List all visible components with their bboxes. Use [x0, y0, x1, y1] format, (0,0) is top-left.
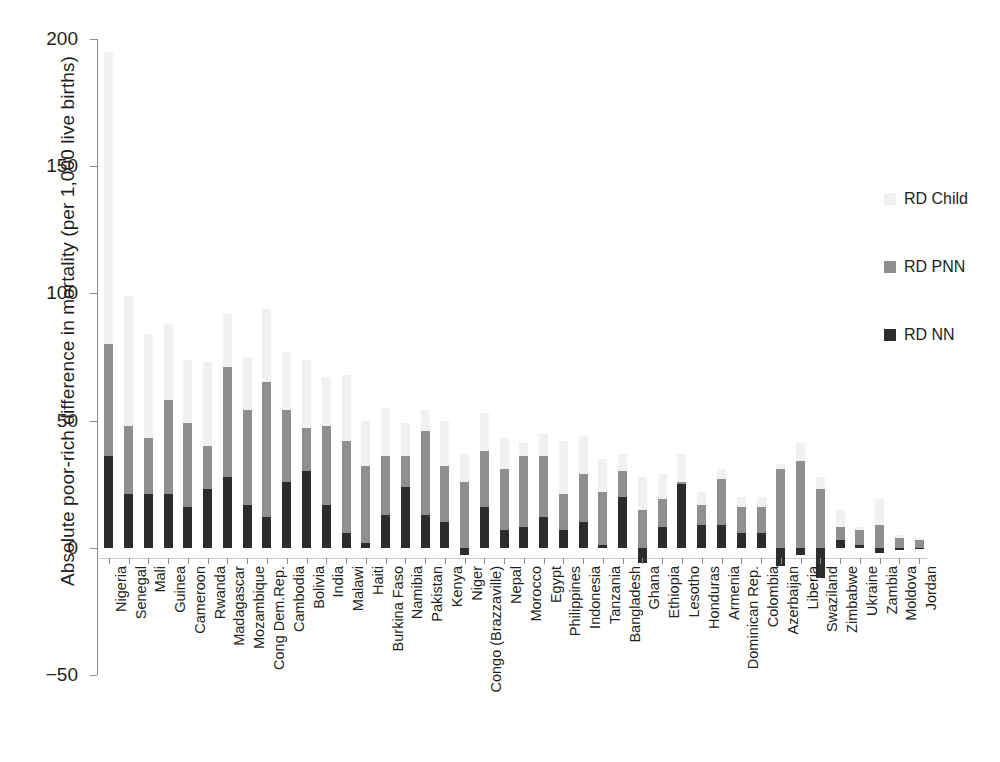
- segment-rd-child: [875, 499, 884, 524]
- x-tick: [287, 558, 288, 564]
- x-axis-label-lesotho: Lesotho: [687, 566, 702, 618]
- legend-swatch-rd-child-icon: [884, 193, 896, 205]
- segment-rd-pnn: [282, 410, 291, 481]
- segment-rd-pnn: [855, 530, 864, 545]
- segment-rd-pnn: [737, 507, 746, 532]
- segment-rd-pnn: [915, 540, 924, 548]
- segment-rd-nn: [757, 533, 766, 548]
- segment-rd-nn: [262, 517, 271, 548]
- segment-rd-child: [717, 469, 726, 479]
- segment-rd-child: [282, 352, 291, 411]
- x-axis-label-haiti: Haiti: [371, 566, 386, 595]
- y-tick-label: 100: [46, 282, 78, 304]
- x-tick: [168, 558, 169, 564]
- x-axis-label-swaziland: Swaziland: [825, 566, 840, 632]
- segment-rd-nn: [203, 489, 212, 548]
- segment-rd-nn: [124, 494, 133, 547]
- segment-rd-nn: [361, 543, 370, 548]
- x-tick: [386, 558, 387, 564]
- x-tick: [227, 558, 228, 564]
- segment-rd-nn: [559, 530, 568, 548]
- x-axis-label-ethiopia: Ethiopia: [667, 566, 682, 618]
- segment-rd-child: [440, 421, 449, 467]
- x-tick: [642, 558, 643, 564]
- x-axis-label-tanzania: Tanzania: [608, 566, 623, 624]
- segment-rd-child: [302, 360, 311, 429]
- x-axis-label-nepal: Nepal: [509, 566, 524, 604]
- figure-container: Absolute poor-rich difference in mortali…: [0, 0, 1000, 762]
- x-tick: [801, 558, 802, 564]
- legend-item-rd-child[interactable]: RD Child: [884, 190, 968, 208]
- x-axis-label-zimbabwe: Zimbabwe: [845, 566, 860, 633]
- segment-rd-nn: [500, 530, 509, 548]
- segment-rd-nn: [243, 505, 252, 548]
- segment-rd-nn: [677, 484, 686, 548]
- page-caption: [0, 742, 1000, 762]
- y-tick-0: 0: [90, 548, 97, 549]
- segment-rd-pnn: [618, 471, 627, 496]
- segment-rd-pnn: [144, 438, 153, 494]
- x-axis-label-armenia: Armenia: [727, 566, 742, 620]
- x-tick: [247, 558, 248, 564]
- segment-rd-nn: [104, 456, 113, 548]
- x-axis-label-zambia: Zambia: [885, 566, 900, 614]
- x-tick: [919, 558, 920, 564]
- y-tick-label: 150: [46, 155, 78, 177]
- segment-rd-pnn: [203, 446, 212, 489]
- x-axis-label-moldova: Moldova: [904, 566, 919, 621]
- segment-rd-nn: [302, 471, 311, 547]
- legend-item-rd-pnn[interactable]: RD PNN: [884, 258, 965, 276]
- x-axis-label-namibia: Namibia: [410, 566, 425, 619]
- segment-rd-pnn: [104, 344, 113, 456]
- x-axis-label-malawi: Malawi: [351, 566, 366, 611]
- x-axis-label-dominican-rep: Dominican Rep.: [746, 566, 761, 669]
- x-axis-label-india: India: [331, 566, 346, 597]
- x-axis-label-cong-dem-rep: Cong Dem.Rep.: [272, 566, 287, 670]
- x-tick: [188, 558, 189, 564]
- x-tick: [623, 558, 624, 564]
- segment-rd-child: [460, 454, 469, 482]
- x-axis-label-philippines: Philippines: [568, 566, 583, 636]
- segment-rd-pnn: [638, 510, 647, 548]
- x-axis-label-azerbaijan: Azerbaijan: [786, 566, 801, 635]
- segment-rd-nn: [796, 548, 805, 556]
- x-tick: [880, 558, 881, 564]
- segment-rd-child: [598, 459, 607, 492]
- segment-rd-child: [816, 477, 825, 490]
- segment-rd-child: [618, 454, 627, 472]
- x-tick: [662, 558, 663, 564]
- segment-rd-child: [559, 441, 568, 494]
- x-axis-label-ukraine: Ukraine: [865, 566, 880, 616]
- y-tick-label: 50: [57, 410, 78, 432]
- legend-item-rd-nn[interactable]: RD NN: [884, 326, 955, 344]
- segment-rd-pnn: [124, 426, 133, 495]
- x-tick: [820, 558, 821, 564]
- x-tick: [781, 558, 782, 564]
- segment-rd-child: [262, 309, 271, 383]
- segment-rd-child: [737, 497, 746, 507]
- segment-rd-pnn: [342, 441, 351, 533]
- segment-rd-child: [104, 52, 113, 345]
- segment-rd-pnn: [875, 525, 884, 548]
- x-axis-label-egypt: Egypt: [549, 566, 564, 603]
- segment-rd-child: [361, 421, 370, 467]
- segment-rd-pnn: [895, 538, 904, 548]
- segment-rd-child: [855, 527, 864, 530]
- segment-rd-child: [322, 377, 331, 425]
- segment-rd-nn: [855, 545, 864, 548]
- x-axis-label-morocco: Morocco: [529, 566, 544, 622]
- x-tick: [267, 558, 268, 564]
- segment-rd-child: [401, 423, 410, 456]
- segment-rd-pnn: [183, 423, 192, 507]
- x-tick: [465, 558, 466, 564]
- segment-rd-child: [757, 497, 766, 507]
- x-axis-label-pakistan: Pakistan: [430, 566, 445, 622]
- segment-rd-child: [836, 510, 845, 528]
- segment-rd-nn: [480, 507, 489, 548]
- x-axis-label-burkina-faso: Burkina Faso: [391, 566, 406, 651]
- x-tick: [524, 558, 525, 564]
- segment-rd-nn: [322, 505, 331, 548]
- segment-rd-nn: [618, 497, 627, 548]
- x-axis-label-cameroon: Cameroon: [193, 566, 208, 634]
- x-tick: [702, 558, 703, 564]
